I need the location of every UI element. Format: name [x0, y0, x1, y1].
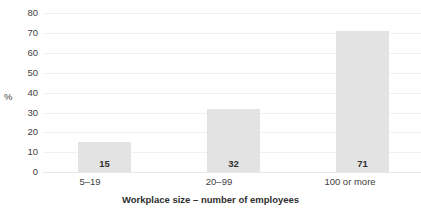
bar-20-99[interactable]: 32 — [207, 109, 260, 172]
bar-100-or-more[interactable]: 71 — [336, 31, 389, 172]
x-tick-label-100-or-more: 100 or more — [300, 176, 400, 187]
bar-value-label: 71 — [336, 158, 389, 169]
chart-title-truncated — [0, 0, 421, 3]
y-tick-label-60: 60 — [8, 48, 38, 58]
y-tick-label-70: 70 — [8, 28, 38, 38]
y-tick-label-0: 0 — [8, 167, 38, 177]
bar-value-label: 32 — [207, 158, 260, 169]
x-tick-label-20-99: 20–99 — [173, 176, 265, 187]
y-tick-label-80: 80 — [8, 8, 38, 18]
plot-area: 15 32 71 — [43, 13, 421, 172]
y-tick-label-50: 50 — [8, 68, 38, 78]
axis-baseline — [43, 172, 421, 173]
x-axis-title: Workplace size – number of employees — [0, 194, 421, 205]
x-tick-label-5-19: 5–19 — [44, 176, 136, 187]
y-tick-label-40: 40 — [8, 88, 38, 98]
bar-value-label: 15 — [78, 158, 131, 169]
gridline-80 — [43, 13, 421, 14]
y-tick-label-10: 10 — [8, 147, 38, 157]
y-tick-label-20: 20 — [8, 127, 38, 137]
y-tick-label-30: 30 — [8, 108, 38, 118]
bar-5-19[interactable]: 15 — [78, 142, 131, 172]
